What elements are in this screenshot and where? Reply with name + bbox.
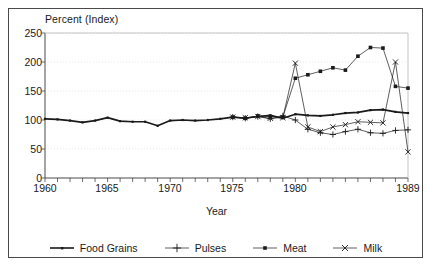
- data-series-layer: [44, 46, 411, 155]
- legend-label: Meat: [283, 242, 306, 254]
- gridlines: [45, 33, 408, 149]
- legend-item-milk[interactable]: Milk: [332, 242, 382, 254]
- legend-item-meat[interactable]: Meat: [252, 242, 306, 254]
- axis-lines: [45, 33, 408, 178]
- legend-label: Pulses: [195, 242, 227, 254]
- plot-canvas: [0, 0, 433, 270]
- y-axis-ticks: [41, 33, 45, 178]
- chart-legend: Food Grains Pulses Meat Milk: [8, 238, 423, 258]
- chart-figure: Percent (Index) 250 200 150 100 50 0 196…: [0, 0, 433, 270]
- cross-marker-icon: [332, 242, 358, 254]
- legend-item-pulses[interactable]: Pulses: [164, 242, 227, 254]
- plus-marker-icon: [164, 242, 190, 254]
- line-solid-icon: [49, 242, 75, 254]
- x-axis-ticks: [45, 178, 408, 182]
- legend-item-food-grains[interactable]: Food Grains: [49, 242, 138, 254]
- x-axis-title: Year: [0, 205, 433, 217]
- legend-label: Food Grains: [80, 242, 138, 254]
- legend-label: Milk: [363, 242, 382, 254]
- square-marker-icon: [252, 242, 278, 254]
